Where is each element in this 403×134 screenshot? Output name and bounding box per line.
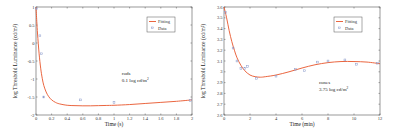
x-tick-label: 1.4 — [142, 116, 148, 121]
data-point — [304, 70, 306, 72]
rods-chart: 00.20.40.60.811.21.41.61.82 10.50-0.5-1-… — [12, 5, 193, 129]
x-tick-label: 2 — [191, 116, 193, 121]
cones-x-axis-title: Time (min) — [289, 121, 314, 128]
annotation-luminance: 3.75 log cd/m2 — [319, 86, 349, 92]
y-tick-label: 1 — [32, 5, 34, 10]
data-point — [41, 53, 43, 55]
x-tick-label: 0 — [223, 116, 226, 121]
y-tick-label: 3.5 — [217, 15, 223, 20]
annotation-label: rods — [122, 71, 131, 76]
data-point — [43, 96, 45, 98]
annotation-luminance: 0.1 log cd/m2 — [122, 77, 149, 83]
x-tick-label: 8 — [327, 116, 330, 121]
y-tick-label: -2 — [31, 113, 35, 118]
data-point — [244, 68, 246, 70]
x-tick-label: 0.2 — [49, 116, 55, 121]
x-tick-label: 0 — [35, 116, 38, 121]
data-point — [113, 102, 115, 104]
y-tick-label: 2.8 — [217, 91, 223, 96]
cones-legend-fit-label: Fitting — [345, 19, 358, 24]
cones-legend: Fitting Data — [334, 17, 362, 32]
y-tick-label: 2.6 — [217, 113, 223, 118]
cones-chart: 024681012 3.63.53.43.33.23.132.92.82.72.… — [200, 5, 382, 129]
y-tick-label: 2.9 — [217, 80, 223, 85]
y-tick-label: -1 — [31, 77, 35, 82]
y-tick-label: 2.7 — [217, 102, 223, 107]
data-point — [247, 66, 249, 68]
x-tick-label: 0.8 — [96, 116, 102, 121]
annotation-superscript: 2 — [347, 86, 349, 90]
data-point — [240, 68, 242, 70]
y-tick-label: 3.3 — [217, 37, 223, 42]
data-point — [80, 99, 82, 101]
cones-annotation: cones3.75 log cd/m2 — [319, 80, 349, 92]
y-tick-label: 3.1 — [217, 59, 223, 64]
rods-y-axis-title: log Threshold Luminance (cd/m²) — [12, 24, 19, 99]
data-point — [356, 63, 358, 65]
data-point — [39, 35, 41, 37]
data-point — [327, 60, 329, 62]
annotation-label: cones — [319, 80, 330, 85]
x-tick-label: 0.6 — [80, 116, 86, 121]
figure: 00.20.40.60.811.21.41.61.82 10.50-0.5-1-… — [0, 0, 403, 134]
y-tick-label: 3.2 — [217, 48, 223, 53]
y-tick-label: 3.6 — [217, 5, 223, 10]
annotation-superscript: 2 — [147, 77, 149, 81]
cones-y-axis-title: log Threshold Luminance (cd/m²) — [200, 24, 207, 99]
x-tick-label: 0.4 — [64, 116, 70, 121]
x-tick-label: 1.8 — [174, 116, 180, 121]
x-tick-label: 2 — [249, 116, 251, 121]
x-tick-label: 12 — [378, 116, 383, 121]
y-tick-label: -0.5 — [27, 59, 35, 64]
y-tick-label: -1.5 — [27, 95, 35, 100]
y-tick-label: 0 — [32, 41, 35, 46]
data-point — [344, 59, 346, 61]
rods-legend-data-label: Data — [158, 26, 167, 31]
data-point — [236, 60, 238, 62]
rods-annotation: rods0.1 log cd/m2 — [122, 71, 149, 83]
x-tick-label: 4 — [275, 116, 278, 121]
x-tick-label: 1.6 — [158, 116, 164, 121]
rods-legend-fit-label: Fitting — [158, 19, 171, 24]
data-point — [256, 77, 258, 79]
y-tick-label: 3 — [220, 69, 223, 74]
y-tick-label: 3.4 — [217, 26, 223, 31]
rods-x-axis-title: Time (s) — [105, 121, 124, 128]
cones-legend-data-label: Data — [345, 26, 354, 31]
rods-legend: Fitting Data — [147, 17, 175, 32]
data-point — [317, 61, 319, 63]
x-tick-label: 10 — [352, 116, 357, 121]
x-tick-label: 1.2 — [127, 116, 133, 121]
y-tick-label: 0.5 — [29, 23, 35, 28]
